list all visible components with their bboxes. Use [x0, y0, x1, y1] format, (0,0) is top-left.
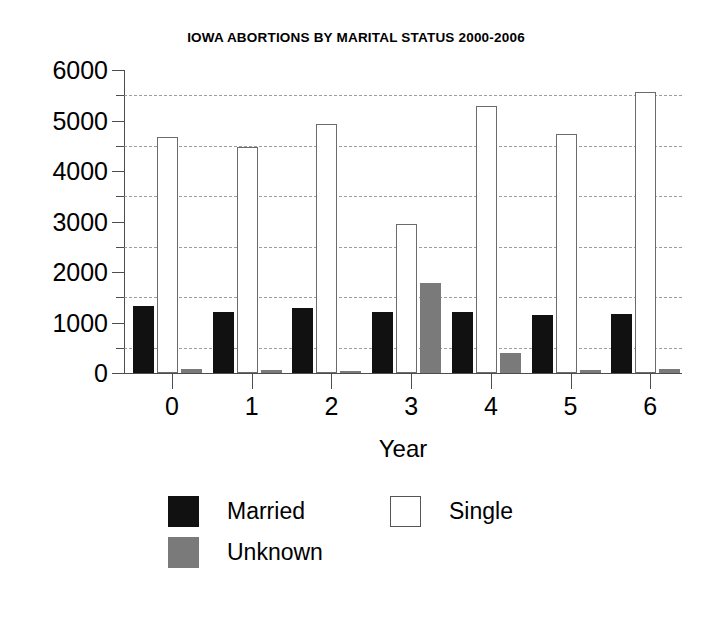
y-tick-label: 2000 [52, 258, 108, 287]
y-tick-minor [116, 196, 124, 197]
plot-area: 0100020003000400050006000 0123456 Year [124, 70, 682, 373]
x-tick-label: 5 [564, 392, 578, 421]
bar-single-4 [476, 106, 497, 373]
x-axis-title: Year [124, 435, 682, 463]
bar-unknown-5 [580, 370, 601, 373]
x-tick [650, 373, 651, 389]
y-tick-label: 5000 [52, 106, 108, 135]
y-tick-minor [116, 297, 124, 298]
x-tick [571, 373, 572, 389]
bar-single-1 [237, 147, 258, 373]
bar-unknown-2 [340, 371, 361, 373]
legend-row: MarriedSingle [168, 496, 588, 527]
bar-group [363, 70, 443, 373]
bar-married-6 [611, 314, 632, 373]
x-tick-label: 1 [245, 392, 259, 421]
page-title: IOWA ABORTIONS BY MARITAL STATUS 2000-20… [0, 30, 712, 45]
y-tick-major [112, 373, 124, 374]
bar-group [204, 70, 284, 373]
bar-group [443, 70, 523, 373]
legend-swatch-married-icon [168, 496, 199, 527]
bar-group [283, 70, 363, 373]
legend-row: Unknown [168, 537, 588, 568]
y-tick-label: 4000 [52, 157, 108, 186]
bar-unknown-3 [420, 283, 441, 373]
y-tick-label: 6000 [52, 56, 108, 85]
legend: MarriedSingleUnknown [168, 496, 588, 578]
y-tick-major [112, 171, 124, 172]
x-axis-line [122, 373, 682, 374]
x-tick-label: 3 [404, 392, 418, 421]
legend-item-married[interactable]: Married [168, 496, 390, 527]
bar-unknown-0 [181, 369, 202, 373]
y-tick-major [112, 222, 124, 223]
bar-married-4 [452, 312, 473, 373]
y-tick-label: 1000 [52, 308, 108, 337]
x-tick [172, 373, 173, 389]
x-tick [491, 373, 492, 389]
legend-swatch-unknown-icon [168, 537, 199, 568]
bar-single-3 [396, 224, 417, 373]
bar-single-5 [556, 134, 577, 373]
y-tick-minor [116, 348, 124, 349]
bar-married-2 [292, 308, 313, 373]
legend-item-unknown[interactable]: Unknown [168, 537, 390, 568]
y-tick-major [112, 323, 124, 324]
bar-married-3 [372, 312, 393, 373]
y-tick-minor [116, 146, 124, 147]
bar-unknown-6 [659, 369, 680, 373]
bar-group [523, 70, 603, 373]
bar-married-0 [133, 306, 154, 373]
bar-single-0 [157, 137, 178, 373]
legend-label: Single [449, 498, 513, 525]
legend-label: Married [227, 498, 305, 525]
x-tick [252, 373, 253, 389]
y-tick-minor [116, 247, 124, 248]
y-tick-major [112, 70, 124, 71]
y-tick-label: 3000 [52, 207, 108, 236]
bar-unknown-1 [261, 370, 282, 373]
y-tick-major [112, 121, 124, 122]
legend-swatch-single-icon [390, 496, 421, 527]
y-tick-minor [116, 95, 124, 96]
bar-married-1 [213, 312, 234, 373]
x-tick [411, 373, 412, 389]
bar-group [124, 70, 204, 373]
legend-item-single[interactable]: Single [390, 496, 513, 527]
x-tick-label: 0 [165, 392, 179, 421]
y-tick-label: 0 [94, 359, 108, 388]
y-tick-major [112, 272, 124, 273]
bar-group [602, 70, 682, 373]
bar-single-2 [316, 124, 337, 373]
bar-unknown-4 [500, 353, 521, 373]
x-tick-label: 2 [324, 392, 338, 421]
x-tick-label: 4 [484, 392, 498, 421]
x-tick-label: 6 [643, 392, 657, 421]
legend-label: Unknown [227, 539, 323, 566]
bar-married-5 [532, 315, 553, 373]
bar-single-6 [635, 92, 656, 373]
x-tick [331, 373, 332, 389]
